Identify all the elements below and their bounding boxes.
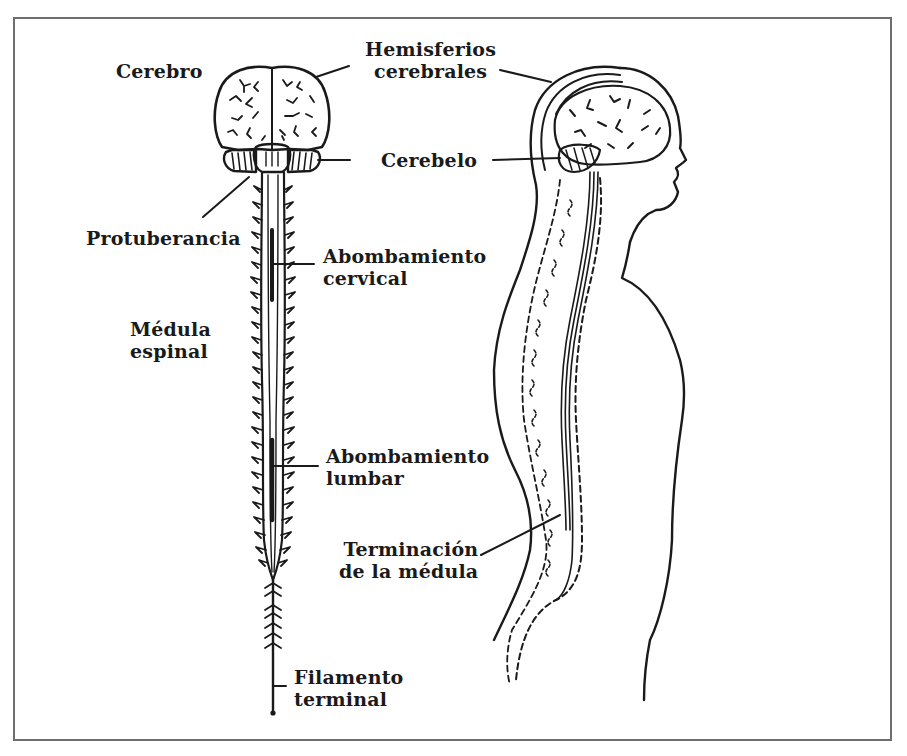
- label-text: terminal: [294, 688, 404, 710]
- label-terminacion-medula: Terminación de la médula: [339, 538, 478, 582]
- label-text: cervical: [323, 267, 486, 289]
- label-text: Terminación: [339, 538, 478, 560]
- side-cerebellum: [559, 145, 600, 172]
- label-filamento-terminal: Filamento terminal: [294, 666, 404, 710]
- label-text: de la médula: [339, 560, 478, 582]
- side-brain: [555, 86, 671, 165]
- label-text: Hemisferios: [365, 38, 496, 60]
- label-cerebelo: Cerebelo: [381, 149, 477, 171]
- label-text: Abombamiento: [323, 245, 486, 267]
- label-abombamiento-lumbar: Abombamiento lumbar: [326, 445, 489, 489]
- label-text: Abombamiento: [326, 445, 489, 467]
- label-text: Cerebelo: [381, 149, 477, 171]
- label-cerebro: Cerebro: [116, 60, 203, 82]
- label-abombamiento-cervical: Abombamiento cervical: [323, 245, 486, 289]
- label-text: lumbar: [326, 467, 489, 489]
- label-protuberancia: Protuberancia: [86, 227, 241, 249]
- label-text: Cerebro: [116, 60, 203, 82]
- label-text: Filamento: [294, 666, 404, 688]
- label-hemisferios-cerebrales: Hemisferios cerebrales: [365, 38, 496, 82]
- label-text: Protuberancia: [86, 227, 241, 249]
- label-text: espinal: [130, 340, 211, 362]
- front-brain: [215, 67, 330, 150]
- side-vertebral-column: [507, 172, 601, 685]
- nervous-system-illustration: [0, 0, 907, 756]
- side-head-body-outline: [494, 67, 686, 700]
- label-text: cerebrales: [365, 60, 496, 82]
- label-medula-espinal: Médula espinal: [130, 318, 211, 362]
- label-text: Médula: [130, 318, 211, 340]
